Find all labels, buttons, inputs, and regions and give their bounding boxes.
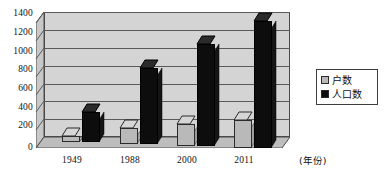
bar-population-1988 <box>140 68 158 144</box>
legend-swatch-households-icon <box>321 76 329 84</box>
bar-top-face <box>82 104 100 112</box>
legend-swatch-population-icon <box>321 90 329 98</box>
bar-top-face <box>62 128 80 136</box>
bar-population-2000 <box>197 44 215 146</box>
bar-front-face <box>177 124 195 146</box>
bar-front-face <box>82 112 100 142</box>
gridline-depth-edges <box>36 12 48 148</box>
x-tick-label-1988: 1988 <box>110 155 150 166</box>
y-tick-label: 1400 <box>13 8 33 18</box>
bar-top-face <box>177 116 195 124</box>
y-tick-label: 400 <box>18 102 33 112</box>
bar-front-face <box>62 136 80 142</box>
y-tick-label: 0 <box>28 142 33 152</box>
y-tick-label: 200 <box>18 120 33 130</box>
bar-chart: 1400 1200 1000 800 600 400 200 0 <box>0 0 391 187</box>
plot-area <box>36 12 290 148</box>
bar-population-2011 <box>254 21 272 148</box>
legend-label-population: 人口数 <box>332 89 362 100</box>
bar-top-face <box>254 13 272 21</box>
y-axis: 1400 1200 1000 800 600 400 200 0 <box>0 0 33 187</box>
bar-front-face <box>254 21 272 148</box>
legend-label-households: 户数 <box>332 75 352 86</box>
x-tick-label-2011: 2011 <box>224 155 264 166</box>
bar-top-face <box>234 112 252 120</box>
legend-item-households: 户数 <box>321 73 373 87</box>
x-tick-label-2000: 2000 <box>167 155 207 166</box>
y-tick-label: 600 <box>18 83 33 93</box>
bar-front-face <box>197 44 215 146</box>
bar-front-face <box>234 120 252 148</box>
bar-households-2011 <box>234 120 252 148</box>
bar-front-face <box>140 68 158 144</box>
bar-population-1949 <box>82 112 100 142</box>
legend: 户数 人口数 <box>316 69 378 105</box>
bar-households-1988 <box>120 128 138 144</box>
y-tick-label: 800 <box>18 64 33 74</box>
bar-top-face <box>197 36 215 44</box>
y-tick-label: 1200 <box>13 27 33 37</box>
bar-households-2000 <box>177 124 195 146</box>
bar-households-1949 <box>62 136 80 142</box>
legend-item-population: 人口数 <box>321 87 373 101</box>
bar-front-face <box>120 128 138 144</box>
x-axis-title: (年份) <box>299 155 326 166</box>
y-tick-label: 1000 <box>13 46 33 56</box>
x-tick-label-1949: 1949 <box>52 155 92 166</box>
bar-top-face <box>140 60 158 68</box>
bar-top-face <box>120 120 138 128</box>
